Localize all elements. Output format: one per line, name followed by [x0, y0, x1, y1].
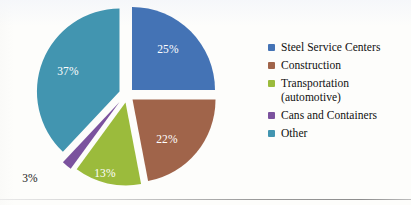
pie-label-cans-and-containers: 3% — [22, 172, 38, 184]
legend-item-transportation[interactable]: Transportation (automotive) — [268, 76, 408, 104]
pie-label-transportation: 13% — [94, 167, 116, 179]
legend-item-label: Other — [281, 126, 307, 140]
legend-swatch-icon — [268, 80, 275, 87]
legend-swatch-icon — [268, 62, 275, 69]
pie-label-steel-service-centers: 25% — [157, 43, 179, 55]
pie-chart-svg: 25% 22% 13% 3% 37% — [4, 2, 250, 200]
legend-item-construction[interactable]: Construction — [268, 58, 408, 72]
legend-item-label: Transportation (automotive) — [281, 76, 349, 104]
legend-item-label: Steel Service Centers — [281, 40, 380, 54]
legend-swatch-icon — [268, 130, 275, 137]
pie-chart-figure: 25% 22% 13% 3% 37% Steel Service Centers… — [0, 0, 411, 205]
pie-label-construction: 22% — [156, 133, 178, 145]
legend-item-label: Construction — [281, 58, 341, 72]
legend-swatch-icon — [268, 112, 275, 119]
legend-swatch-icon — [268, 44, 275, 51]
legend-item-label: Cans and Containers — [281, 108, 377, 122]
pie-chart-plot: 25% 22% 13% 3% 37% — [4, 2, 250, 200]
legend-item-cans-and-containers[interactable]: Cans and Containers — [268, 108, 408, 122]
pie-label-other: 37% — [57, 65, 79, 77]
chart-legend: Steel Service Centers Construction Trans… — [268, 40, 408, 144]
legend-item-other[interactable]: Other — [268, 126, 408, 140]
legend-item-steel-service-centers[interactable]: Steel Service Centers — [268, 40, 408, 54]
